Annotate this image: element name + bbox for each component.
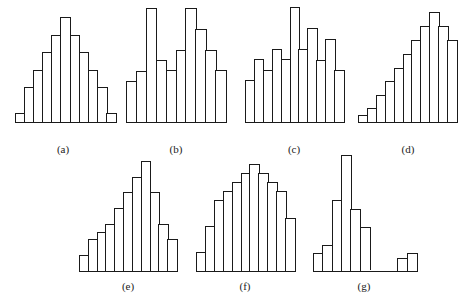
histogram-bars [126, 8, 227, 123]
panel-label-b: (b) [156, 143, 196, 155]
histogram-panel-d [358, 12, 458, 123]
histogram-bars [79, 161, 178, 272]
histogram-panel-f [196, 164, 296, 272]
panel-label-g: (g) [344, 280, 384, 292]
histogram-bars [358, 12, 458, 123]
histogram-bars [15, 17, 117, 123]
panel-label-d: (d) [388, 143, 428, 155]
histogram-panel-b [126, 8, 227, 123]
panel-label-f: (f) [225, 280, 265, 292]
histogram-panel-c [245, 7, 345, 123]
histogram-bar [360, 227, 371, 272]
histogram-bars [196, 164, 296, 272]
histogram-bars [245, 7, 345, 123]
histogram-bar [106, 113, 117, 123]
histogram-panel-e [79, 161, 178, 272]
panel-label-e: (e) [108, 280, 148, 292]
histogram-bar [285, 218, 296, 272]
panel-label-c: (c) [274, 143, 314, 155]
histogram-bar [447, 40, 458, 123]
histogram-bar [334, 70, 345, 123]
panel-label-a: (a) [43, 143, 83, 155]
histogram-bars [313, 155, 418, 272]
histogram-panel-g [313, 155, 418, 272]
histogram-panel-a [15, 17, 117, 123]
histogram-bar [215, 70, 227, 123]
histogram-bar [407, 253, 418, 272]
histogram-bar [167, 239, 177, 272]
